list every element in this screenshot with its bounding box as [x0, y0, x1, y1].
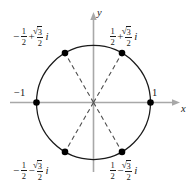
- label-upper-right-real-denominator: 2: [110, 36, 116, 47]
- sqrt-icon: 3: [126, 26, 131, 37]
- label-lower-right-imag-denominator: 2: [125, 171, 131, 182]
- label-upper-left-root: − 1 2 + 3 2 i: [12, 26, 49, 48]
- label-lower-left-radicand: 3: [38, 161, 42, 171]
- x-axis-arrowhead: [172, 99, 180, 105]
- label-lower-right-imag-fraction: 3 2: [124, 160, 132, 182]
- label-lower-left-imaginary-unit: i: [44, 165, 49, 176]
- label-upper-right-real-fraction: 1 2: [109, 27, 116, 47]
- label-upper-right-imag-numerator: 3: [125, 26, 132, 37]
- radius-lower-left: [65, 103, 94, 152]
- label-lower-left-imag-numerator: 3: [36, 160, 43, 171]
- point-lower-right: [119, 149, 126, 156]
- label-upper-right-root: 1 2 + 3 2 i: [107, 26, 137, 48]
- label-upper-left-radicand: 3: [38, 27, 42, 37]
- sqrt-icon: 3: [126, 160, 131, 171]
- radius-upper-left: [65, 53, 94, 102]
- label-lower-left-imag-denominator: 2: [37, 171, 43, 182]
- label-lower-right-root: 1 2 − 3 2 i: [107, 160, 137, 182]
- label-upper-left-imaginary-unit: i: [44, 31, 49, 42]
- x-axis-label: x: [181, 104, 186, 115]
- radius-lower-right: [94, 103, 123, 152]
- point-1: [147, 99, 154, 106]
- label-lower-left-imag-fraction: 3 2: [36, 160, 44, 182]
- y-axis-label: y: [97, 8, 102, 19]
- label-upper-right-radicand: 3: [126, 27, 130, 37]
- label-upper-left-imag-fraction: 3 2: [36, 26, 44, 48]
- label-upper-left-imag-numerator: 3: [36, 26, 43, 37]
- label-lower-left-real-fraction: 1 2: [20, 161, 27, 181]
- radius-upper-right: [94, 53, 123, 102]
- label-minus-one: −1: [14, 88, 25, 99]
- label-lower-left-sign: −: [12, 165, 20, 176]
- label-lower-right-imag-numerator: 3: [125, 160, 132, 171]
- label-upper-left-imag-denominator: 2: [37, 37, 43, 48]
- label-lower-left-real-denominator: 2: [21, 170, 27, 181]
- label-one: 1: [152, 88, 157, 99]
- y-axis: [90, 12, 96, 172]
- label-lower-right-real-numerator: 1: [110, 161, 116, 171]
- label-upper-right-imaginary-unit: i: [133, 31, 138, 42]
- point-upper-left: [62, 50, 69, 57]
- label-lower-right-radicand: 3: [126, 161, 130, 171]
- label-lower-left-root: − 1 2 − 3 2 i: [12, 160, 49, 182]
- label-upper-right-imag-denominator: 2: [125, 37, 131, 48]
- label-lower-right-real-denominator: 2: [110, 170, 116, 181]
- label-upper-left-real-denominator: 2: [21, 36, 27, 47]
- label-upper-left-real-numerator: 1: [21, 27, 27, 37]
- point-minus-1: [33, 99, 40, 106]
- point-upper-right: [119, 50, 126, 57]
- label-upper-left-real-fraction: 1 2: [20, 27, 27, 47]
- label-upper-right-real-numerator: 1: [110, 27, 116, 37]
- y-axis-arrowhead: [90, 12, 96, 20]
- label-lower-right-imaginary-unit: i: [133, 165, 138, 176]
- complex-plane-figure: − 1 2 + 3 2 i 1 2 + 3 2 i − 1 2 −: [0, 0, 191, 188]
- label-lower-right-real-fraction: 1 2: [109, 161, 116, 181]
- sqrt-icon: 3: [37, 26, 42, 37]
- label-upper-right-imag-fraction: 3 2: [124, 26, 132, 48]
- label-lower-left-real-numerator: 1: [21, 161, 27, 171]
- sqrt-icon: 3: [37, 160, 42, 171]
- point-lower-left: [62, 149, 69, 156]
- label-upper-left-sign: −: [12, 31, 20, 42]
